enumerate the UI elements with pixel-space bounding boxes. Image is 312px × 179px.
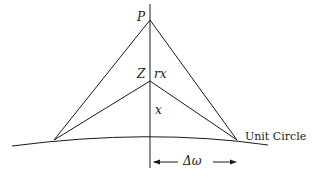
label-delta-omega: Δω [183,155,201,167]
diagram-lines [0,0,312,179]
label-rx: rx [154,68,167,80]
unit-circle-arc [12,137,268,146]
arrowhead-right-icon [230,160,237,165]
label-x: x [155,104,162,116]
label-unit-circle: Unit Circle [245,131,306,142]
label-P: P [137,11,145,23]
line-Z-left [54,81,150,140]
diagram-canvas: P Z rx x Δω Unit Circle [0,0,312,179]
line-Z-right [150,81,237,140]
label-Z: Z [137,68,145,80]
line-P-left [54,20,150,140]
arrowhead-left-icon [153,160,160,165]
